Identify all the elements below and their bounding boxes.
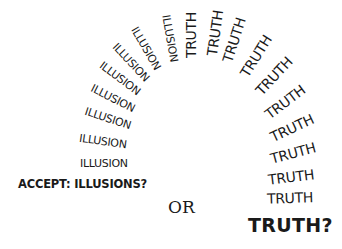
truth-question: TRUTH? xyxy=(248,214,333,236)
truth-word: TRUTH xyxy=(267,167,314,187)
or-label: OR xyxy=(168,197,195,217)
truth-word: TRUTH xyxy=(267,190,314,206)
truth-word: TRUTH xyxy=(184,12,198,58)
illusion-word: ILLUSION xyxy=(160,14,179,63)
illusion-word: ILLUSION xyxy=(80,158,128,169)
illusion-word: ILLUSION xyxy=(78,132,127,150)
accept-illusions-question: ACCEPT: ILLUSIONS? xyxy=(18,177,147,191)
